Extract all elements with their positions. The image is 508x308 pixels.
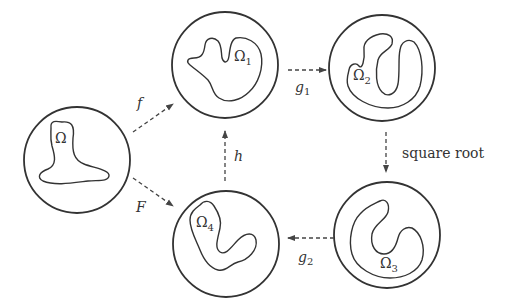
node-label-omega2: Ω2 xyxy=(353,67,371,86)
region-omega xyxy=(39,121,109,183)
node-omega: Ω xyxy=(24,107,130,213)
edge-h: h xyxy=(225,131,243,181)
node-omega4: Ω4 xyxy=(173,191,279,297)
conformal-map-diagram: Ω Ω1 Ω2 Ω3 Ω4 f F g1 square root xyxy=(0,0,508,308)
node-label-omega4: Ω4 xyxy=(196,214,214,233)
edge-square-root: square root xyxy=(386,132,484,172)
edge-g2: g2 xyxy=(288,238,334,267)
edge-label-square-root: square root xyxy=(402,145,484,161)
node-omega3: Ω3 xyxy=(334,182,440,288)
edge-label-g2: g2 xyxy=(298,249,313,267)
edge-label-h: h xyxy=(234,148,243,164)
edge-f: f xyxy=(133,95,173,132)
edge-label-F: F xyxy=(135,199,147,215)
edge-g1: g1 xyxy=(288,70,326,97)
disk-omega3 xyxy=(334,182,440,288)
edge-F: F xyxy=(133,178,173,215)
disk-omega2 xyxy=(329,15,435,121)
node-omega1: Ω1 xyxy=(172,12,278,118)
node-omega2: Ω2 xyxy=(329,15,435,121)
node-label-omega3: Ω3 xyxy=(380,255,398,274)
edge-label-f: f xyxy=(136,95,145,111)
region-omega4 xyxy=(190,201,256,270)
node-label-omega: Ω xyxy=(55,130,67,146)
node-label-omega1: Ω1 xyxy=(234,48,252,67)
edge-label-g1: g1 xyxy=(295,79,310,97)
disk-omega4 xyxy=(173,191,279,297)
region-omega1 xyxy=(188,38,262,101)
